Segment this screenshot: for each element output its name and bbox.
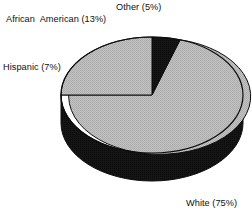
pie-slice-african-american (61, 37, 152, 95)
pie-chart: Other (5%) African American (13%) Hispan… (0, 0, 252, 216)
pie-label-hispanic: Hispanic (7%) (3, 62, 61, 73)
pie-label-african-american: African American (13%) (6, 14, 106, 25)
pie-chart-graphic (0, 0, 252, 216)
pie-label-white: White (75%) (186, 198, 237, 209)
pie-label-other: Other (5%) (116, 2, 161, 13)
